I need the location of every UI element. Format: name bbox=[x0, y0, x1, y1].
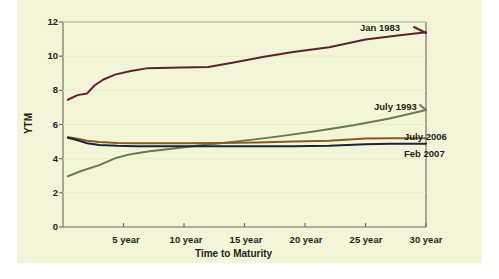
ytick-label-2: 2 bbox=[32, 187, 58, 198]
ytick-label-12: 12 bbox=[32, 16, 58, 27]
series-label-feb-2007: Feb 2007 bbox=[404, 148, 445, 159]
axis-frame bbox=[63, 22, 426, 227]
y-axis-title: YTM bbox=[23, 94, 34, 154]
connector-july-1993 bbox=[420, 105, 426, 110]
ytick-label-4: 4 bbox=[32, 153, 58, 164]
ytick-label-6: 6 bbox=[32, 119, 58, 130]
xtick-label-25year: 25 year bbox=[336, 234, 396, 245]
xtick-label-30year: 30 year bbox=[396, 234, 456, 245]
series-label-july-1993: July 1993 bbox=[374, 101, 417, 112]
series-line-jan-1983 bbox=[68, 32, 426, 99]
x-axis-title: Time to Maturity bbox=[195, 248, 272, 259]
series-label-july-2006: July 2006 bbox=[404, 131, 447, 142]
ytick-label-10: 10 bbox=[32, 50, 58, 61]
xtick-label-20year: 20 year bbox=[276, 234, 336, 245]
xtick-label-15year: 15 year bbox=[216, 234, 276, 245]
series-label-jan-1983: Jan 1983 bbox=[360, 22, 400, 33]
xtick-label-5year: 5 year bbox=[96, 234, 156, 245]
ytick-label-8: 8 bbox=[32, 84, 58, 95]
series-lines bbox=[68, 27, 426, 176]
chart-figure: 12 10 8 6 4 2 0 5 year 10 year 15 year 2… bbox=[0, 0, 499, 279]
xtick-label-10year: 10 year bbox=[156, 234, 216, 245]
ytick-label-0: 0 bbox=[32, 221, 58, 232]
